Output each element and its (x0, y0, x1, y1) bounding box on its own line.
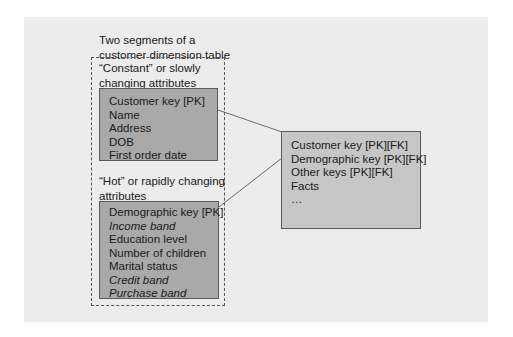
constant-attributes-table: Customer key [PK] Name Address DOB First… (99, 88, 218, 161)
table-row: Demographic key [PK] (109, 206, 218, 220)
table-row: First order date (109, 149, 217, 163)
table-row: Name (109, 109, 217, 123)
table-row: Education level (109, 233, 218, 247)
table-row: … (291, 193, 420, 207)
table-row: DOB (109, 136, 217, 150)
hot-attributes-table: Demographic key [PK] Income band Educati… (99, 201, 219, 299)
hot-label-line-1: “Hot” or rapidly changing (99, 174, 225, 189)
caption-line-1: Two segments of a (99, 33, 230, 48)
table-row: Other keys [PK][FK] (291, 166, 420, 180)
table-row: Credit band (109, 274, 218, 288)
table-row: Customer key [PK][FK] (291, 139, 420, 153)
table-row: Marital status (109, 260, 218, 274)
table-row: Facts (291, 180, 420, 194)
table-row: Purchase band (109, 287, 218, 301)
table-row: Number of children (109, 247, 218, 261)
fact-table: Customer key [PK][FK] Demographic key [P… (281, 131, 421, 229)
table-row: Income band (109, 220, 218, 234)
constant-label-line-1: “Constant” or slowly (99, 61, 201, 76)
table-row: Address (109, 122, 217, 136)
table-row: Demographic key [PK][FK] (291, 153, 420, 167)
hot-segment-label: “Hot” or rapidly changing attributes (99, 174, 225, 204)
table-row: Customer key [PK] (109, 95, 217, 109)
constant-segment-label: “Constant” or slowly changing attributes (99, 61, 201, 91)
